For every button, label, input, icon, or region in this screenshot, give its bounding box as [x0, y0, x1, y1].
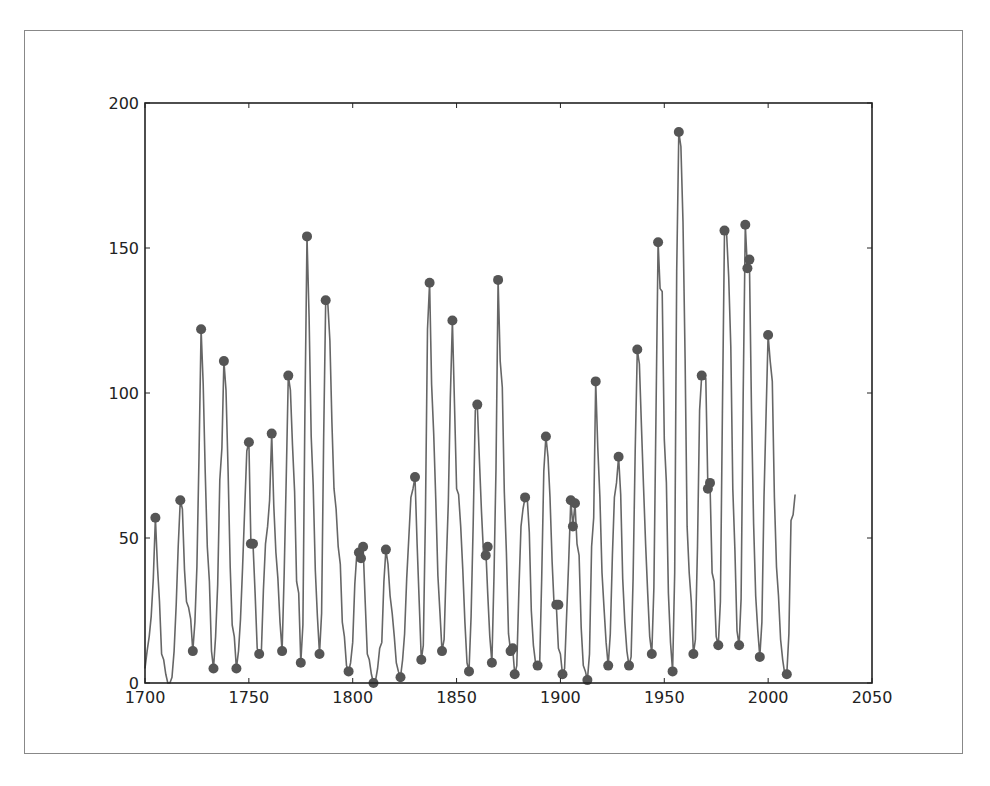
data-marker [150, 513, 160, 523]
data-marker [248, 539, 258, 549]
data-marker [624, 661, 634, 671]
data-marker [483, 542, 493, 552]
data-marker [755, 652, 765, 662]
data-marker [209, 664, 219, 674]
data-marker [315, 649, 325, 659]
data-marker [219, 356, 229, 366]
data-marker [533, 661, 543, 671]
data-marker [568, 521, 578, 531]
data-marker [425, 278, 435, 288]
data-marker [740, 220, 750, 230]
data-marker [520, 492, 530, 502]
x-tick-label: 1850 [436, 688, 477, 707]
data-marker [416, 655, 426, 665]
series-line [145, 132, 795, 683]
data-marker [267, 429, 277, 439]
data-marker [231, 664, 241, 674]
x-tick-label: 2000 [748, 688, 789, 707]
data-marker [175, 495, 185, 505]
y-tick-label: 50 [119, 529, 139, 548]
data-marker [782, 669, 792, 679]
data-marker [493, 275, 503, 285]
data-marker [481, 550, 491, 560]
x-tick-label: 1800 [332, 688, 373, 707]
data-marker [283, 371, 293, 381]
data-marker [277, 646, 287, 656]
y-tick-label: 100 [108, 384, 139, 403]
data-marker [396, 672, 406, 682]
x-tick-label: 1950 [644, 688, 685, 707]
data-marker [344, 666, 354, 676]
data-marker [188, 646, 198, 656]
data-marker [553, 600, 563, 610]
data-marker [734, 640, 744, 650]
line-chart: 17001750180018501900195020002050 0501001… [0, 0, 990, 786]
data-marker [688, 649, 698, 659]
data-marker [447, 316, 457, 326]
data-marker [591, 376, 601, 386]
data-marker [763, 330, 773, 340]
data-marker [302, 231, 312, 241]
x-tick-label: 1750 [228, 688, 269, 707]
data-marker [508, 643, 518, 653]
data-marker [570, 498, 580, 508]
data-marker [410, 472, 420, 482]
data-marker [603, 661, 613, 671]
data-marker [487, 658, 497, 668]
data-marker [614, 452, 624, 462]
data-marker [697, 371, 707, 381]
data-marker [647, 649, 657, 659]
data-marker [558, 669, 568, 679]
data-marker [437, 646, 447, 656]
data-marker [705, 478, 715, 488]
data-marker [653, 237, 663, 247]
data-marker [742, 263, 752, 273]
x-tick-label: 2050 [852, 688, 893, 707]
data-marker [381, 545, 391, 555]
y-tick-label: 0 [129, 674, 139, 693]
y-tick-label: 150 [108, 239, 139, 258]
data-marker [720, 226, 730, 236]
data-marker [713, 640, 723, 650]
data-marker [668, 666, 678, 676]
data-marker [464, 666, 474, 676]
data-marker [244, 437, 254, 447]
data-marker [472, 400, 482, 410]
data-marker [674, 127, 684, 137]
data-marker [356, 553, 366, 563]
data-marker [744, 255, 754, 265]
y-tick-label: 200 [108, 94, 139, 113]
data-line [145, 132, 795, 683]
data-marker [254, 649, 264, 659]
data-marker [510, 669, 520, 679]
data-marker [196, 324, 206, 334]
data-marker [358, 542, 368, 552]
data-marker [321, 295, 331, 305]
data-marker [541, 432, 551, 442]
data-marker [632, 345, 642, 355]
data-marker [296, 658, 306, 668]
x-tick-label: 1900 [540, 688, 581, 707]
